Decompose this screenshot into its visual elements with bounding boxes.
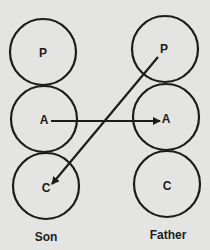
son-adult-state: A bbox=[11, 86, 77, 152]
son-child-label: C bbox=[42, 181, 51, 195]
son-parent-state: P bbox=[10, 19, 76, 85]
son-column-label: Son bbox=[35, 230, 58, 244]
father-child-state: C bbox=[134, 151, 200, 217]
father-child-label: C bbox=[163, 179, 172, 193]
son-parent-label: P bbox=[39, 46, 47, 60]
father-column: P A C Father bbox=[132, 16, 200, 242]
father-parent-state: P bbox=[132, 16, 198, 82]
son-adult-label: A bbox=[40, 113, 49, 127]
son-column: P A C Son bbox=[10, 19, 79, 244]
father-adult-label: A bbox=[162, 112, 171, 126]
father-column-label: Father bbox=[150, 228, 187, 242]
transaction-diagram: P A C Son P A C Father bbox=[0, 0, 210, 250]
father-parent-label: P bbox=[160, 42, 168, 56]
father-adult-state: A bbox=[133, 84, 199, 150]
